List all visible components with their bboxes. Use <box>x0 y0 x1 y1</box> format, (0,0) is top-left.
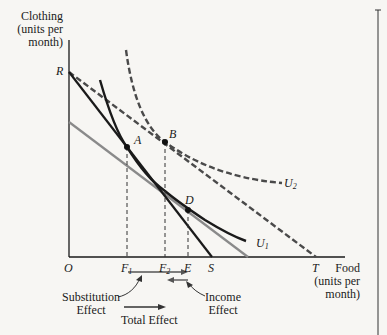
label-E: E <box>184 262 191 275</box>
label-R: R <box>56 65 63 78</box>
substitution-effect-label: Substitution Effect <box>58 291 124 317</box>
substitution-pointer-head-icon <box>136 275 142 282</box>
y-axis-label: Clothing (units per month) <box>8 10 63 49</box>
label-D: D <box>185 194 194 207</box>
label-U1-text: U <box>256 236 265 250</box>
total-arrowhead-icon <box>158 304 166 310</box>
point-D <box>185 207 191 213</box>
label-B: B <box>169 128 176 141</box>
label-F2: F2 <box>159 262 170 278</box>
label-F2-sub: 2 <box>166 267 170 276</box>
label-U2: U2 <box>284 177 297 193</box>
label-U1: U1 <box>256 237 269 253</box>
label-S: S <box>208 262 214 275</box>
label-F1: F1 <box>121 262 132 278</box>
indifference-curve-U1 <box>100 80 246 241</box>
label-F1-sub: 1 <box>128 267 132 276</box>
label-O: O <box>64 262 73 275</box>
label-U1-sub: 1 <box>265 242 269 251</box>
point-B <box>162 139 168 145</box>
total-effect-label: Total Effect <box>121 314 178 327</box>
indifference-curve-U2 <box>126 50 282 183</box>
point-A <box>124 144 130 150</box>
budget-line-RS <box>69 72 212 257</box>
label-A: A <box>134 134 141 147</box>
label-U2-sub: 2 <box>293 182 297 191</box>
substitution-effect-line2: Effect <box>58 304 124 317</box>
y-axis-label-line3: month) <box>8 36 63 49</box>
x-axis-label: Food (units per month) <box>310 262 360 301</box>
income-effect-label: Income Effect <box>198 291 248 317</box>
label-U2-text: U <box>284 176 293 190</box>
income-effect-line2: Effect <box>198 304 248 317</box>
x-axis-label-line3: month) <box>310 288 360 301</box>
